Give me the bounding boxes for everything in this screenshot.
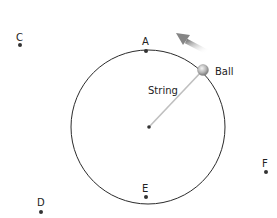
circular-motion-diagram: Ball String A C D E F: [0, 0, 277, 218]
motion-arrow-icon: [176, 33, 207, 52]
point-C-label: C: [16, 32, 23, 43]
point-D-label: D: [37, 197, 45, 208]
ball-label: Ball: [215, 66, 234, 77]
point-F: F: [262, 158, 268, 174]
point-C: C: [16, 32, 23, 47]
string-line: [149, 70, 203, 127]
ball: [198, 65, 209, 76]
center-point: [147, 125, 151, 129]
point-E-label: E: [142, 183, 148, 194]
point-A-label: A: [142, 36, 149, 47]
point-F-label: F: [262, 158, 268, 169]
string-label: String: [148, 85, 178, 96]
point-E: E: [142, 183, 148, 199]
point-D: D: [37, 197, 45, 214]
